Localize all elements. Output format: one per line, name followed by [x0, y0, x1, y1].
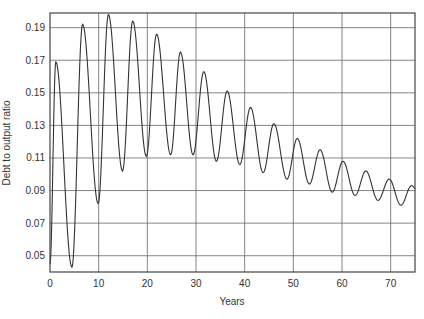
y-tick-label: 0.15	[26, 87, 46, 98]
line-chart: 010203040506070 0.050.070.090.110.130.15…	[0, 0, 424, 319]
x-tick-label: 60	[336, 278, 348, 289]
plot-frame	[50, 13, 415, 272]
x-tick-label: 20	[142, 278, 154, 289]
y-axis-ticks: 0.050.070.090.110.130.150.170.19	[26, 22, 46, 261]
y-tick-label: 0.05	[26, 250, 46, 261]
x-tick-label: 40	[239, 278, 251, 289]
y-tick-label: 0.17	[26, 55, 46, 66]
x-tick-label: 70	[385, 278, 397, 289]
x-tick-label: 30	[190, 278, 202, 289]
x-axis-title: Years	[219, 296, 244, 307]
y-tick-label: 0.09	[26, 185, 46, 196]
y-tick-label: 0.19	[26, 22, 46, 33]
y-tick-label: 0.13	[26, 120, 46, 131]
y-tick-label: 0.11	[26, 152, 45, 163]
x-tick-label: 50	[288, 278, 300, 289]
y-tick-label: 0.07	[26, 218, 46, 229]
debt-ratio-line	[50, 15, 415, 267]
y-axis-title: Debt to output ratio	[1, 100, 12, 185]
x-tick-label: 0	[47, 278, 53, 289]
grid-lines	[50, 13, 415, 272]
x-tick-label: 10	[93, 278, 105, 289]
x-axis-ticks: 010203040506070	[47, 278, 396, 289]
